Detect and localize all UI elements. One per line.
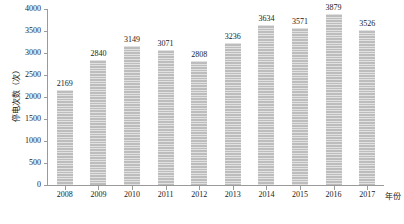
y-axis-tick-label: 0: [3, 181, 41, 189]
y-axis-tick-label: 3500: [3, 27, 41, 35]
bar-series: 2169284031493071280832363634357138793526: [48, 9, 384, 185]
bar-value-label: 3571: [280, 17, 320, 26]
y-axis-tick-label: 2500: [3, 71, 41, 79]
bar[interactable]: [191, 61, 207, 185]
bar-value-label: 3236: [213, 32, 253, 41]
x-axis-ticks: 2008200920102011201220132014201520162017: [48, 186, 384, 206]
y-axis-tick-label: 1500: [3, 115, 41, 123]
y-axis-tick-label: 2000: [3, 93, 41, 101]
bar-value-label: 3879: [314, 3, 354, 12]
y-axis-tick-label: 4000: [3, 5, 41, 13]
x-axis-tick-label: 2017: [347, 190, 387, 200]
bar-value-label: 3071: [146, 39, 186, 48]
bar[interactable]: [158, 50, 174, 185]
bar-group: 3236: [216, 9, 250, 185]
bar[interactable]: [326, 14, 342, 185]
y-axis-tick-label: 3000: [3, 49, 41, 57]
bar-value-label: 2169: [45, 79, 85, 88]
bar[interactable]: [124, 46, 140, 185]
bar-group: 2808: [182, 9, 216, 185]
bar-chart-figure: 停电次数（次） 05001000150020002500300035004000…: [0, 0, 404, 224]
plot-area: 05001000150020002500300035004000 2169284…: [47, 9, 384, 186]
y-axis-tick-label: 500: [3, 159, 41, 167]
bar-group: 3526: [350, 9, 384, 185]
bar-group: 3071: [149, 9, 183, 185]
bar[interactable]: [57, 90, 73, 185]
x-axis-title: 年份: [385, 190, 401, 201]
bar-value-label: 2840: [78, 49, 118, 58]
bar[interactable]: [292, 28, 308, 185]
bar-group: 3879: [317, 9, 351, 185]
bar-group: 2840: [82, 9, 116, 185]
bar-group: 3634: [250, 9, 284, 185]
bar-value-label: 2808: [179, 50, 219, 59]
bar[interactable]: [258, 25, 274, 185]
bar-group: 3571: [283, 9, 317, 185]
bar-value-label: 3526: [347, 19, 387, 28]
bar[interactable]: [90, 60, 106, 185]
bar-group: 3149: [115, 9, 149, 185]
bar-group: 2169: [48, 9, 82, 185]
bar[interactable]: [225, 43, 241, 185]
bar[interactable]: [359, 30, 375, 185]
y-axis-tick-label: 1000: [3, 137, 41, 145]
